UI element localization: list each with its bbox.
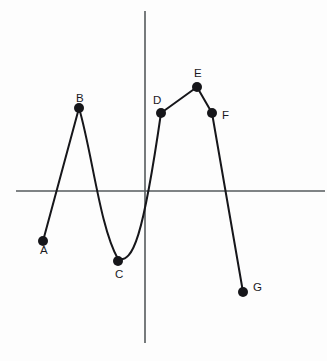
- point-label-c: C: [115, 268, 123, 280]
- point-label-a: A: [40, 244, 48, 256]
- point-label-g: G: [253, 281, 262, 293]
- data-point-b: [74, 103, 84, 113]
- data-point-f: [207, 108, 217, 118]
- point-label-f: F: [222, 109, 229, 121]
- point-label-b: B: [76, 92, 84, 104]
- graph-canvas: ABCDEFG: [0, 0, 327, 361]
- point-label-e: E: [194, 67, 202, 79]
- graph-figure: ABCDEFG: [0, 0, 327, 361]
- data-point-g: [238, 287, 248, 297]
- data-point-e: [192, 82, 202, 92]
- data-point-c: [113, 256, 123, 266]
- point-label-d: D: [153, 94, 161, 106]
- data-points-group: [38, 82, 248, 297]
- data-point-d: [156, 108, 166, 118]
